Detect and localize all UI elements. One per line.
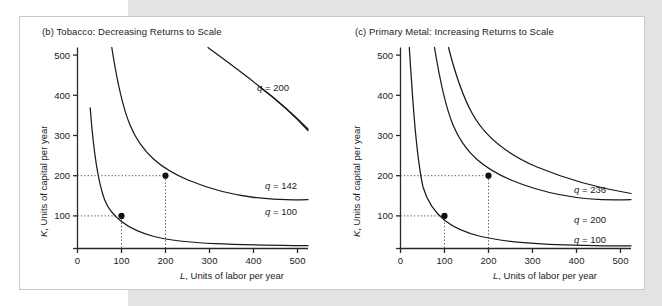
x-tick-100-tobacco: 100	[114, 255, 130, 266]
isoquant-q200-primary-metal	[435, 48, 632, 200]
guide-lines-tobacco	[78, 176, 166, 249]
y-tick-200-tobacco: 200	[54, 170, 70, 181]
curve-label-q236-eq-primary-metal: =	[579, 184, 590, 195]
isoquant-q200-tail-tobacco	[260, 87, 308, 129]
curve-label-q100-eq-primary-metal: =	[579, 234, 590, 245]
x-tick-200-primary-metal: 200	[481, 255, 497, 266]
panel-primary-metal: (c) Primary Metal: Increasing Returns to…	[333, 17, 646, 291]
curve-label-q100-eq-tobacco: =	[270, 206, 281, 217]
x-tick-100-primary-metal: 100	[437, 255, 453, 266]
marked-point-100-100-tobacco	[118, 213, 124, 219]
curve-label-q100-primary-metal: q = 100	[574, 234, 606, 245]
y-ticks-tobacco: 100 200 300 400 500	[54, 50, 77, 249]
curve-label-q200-primary-metal: q = 200	[574, 214, 606, 225]
curve-label-q200-eq-primary-metal: =	[579, 214, 590, 225]
curve-label-q200-tobacco: q = 200	[257, 82, 289, 93]
curve-label-q236-value-primary-metal: 236	[590, 184, 606, 195]
x-tick-300-tobacco: 300	[202, 255, 218, 266]
panel-tobacco: (b) Tobacco: Decreasing Returns to Scale…	[20, 17, 333, 291]
curve-label-q200-eq-tobacco: =	[262, 82, 273, 93]
curve-label-q200-value-primary-metal: 200	[590, 214, 606, 225]
curve-label-q142-value-tobacco: 142	[281, 180, 297, 191]
isoquant-q236-primary-metal	[449, 48, 632, 194]
curve-label-q142-tobacco: q = 142	[265, 180, 297, 191]
x-tick-400-tobacco: 400	[246, 255, 262, 266]
y-tick-100-tobacco: 100	[54, 210, 70, 221]
y-tick-400-tobacco: 400	[54, 90, 70, 101]
curve-label-q236-primary-metal: q = 236	[574, 184, 606, 195]
y-ticks-primary-metal: 100 200 300 400 500	[377, 50, 400, 249]
y-tick-300-tobacco: 300	[54, 130, 70, 141]
x-tick-300-primary-metal: 300	[525, 255, 541, 266]
figure-card: (b) Tobacco: Decreasing Returns to Scale…	[19, 16, 645, 290]
y-tick-500-primary-metal: 500	[377, 50, 393, 61]
y-tick-500-tobacco: 500	[54, 50, 70, 61]
curve-label-q200-value-tobacco: 200	[273, 82, 289, 93]
x-tick-400-primary-metal: 400	[569, 255, 585, 266]
x-ticks-primary-metal: 0 100 200 300 400 500	[398, 249, 629, 267]
curve-label-q142-eq-tobacco: =	[270, 180, 281, 191]
marked-point-200-200-primary-metal	[485, 173, 491, 179]
x-tick-0-primary-metal: 0	[398, 255, 403, 266]
plot-area-primary-metal: 100 200 300 400 500 0 100 200	[333, 17, 646, 291]
marked-point-100-100-primary-metal	[441, 213, 447, 219]
y-tick-300-primary-metal: 300	[377, 130, 393, 141]
x-tick-500-primary-metal: 500	[613, 255, 629, 266]
x-tick-0-tobacco: 0	[75, 255, 80, 266]
marked-point-200-200-tobacco	[162, 173, 168, 179]
y-tick-200-primary-metal: 200	[377, 170, 393, 181]
x-tick-500-tobacco: 500	[290, 255, 306, 266]
curve-label-q100-value-tobacco: 100	[281, 206, 297, 217]
y-tick-100-primary-metal: 100	[377, 210, 393, 221]
plot-area-tobacco: 100 200 300 400 500 0 100 200	[20, 17, 333, 291]
x-tick-200-tobacco: 200	[158, 255, 174, 266]
isoquant-q142-tobacco	[112, 48, 308, 200]
curve-label-q100-tobacco: q = 100	[265, 206, 297, 217]
curve-label-q100-value-primary-metal: 100	[590, 234, 606, 245]
guide-lines-primary-metal	[401, 176, 489, 249]
isoquant-q100-tobacco	[90, 108, 308, 246]
x-ticks-tobacco: 0 100 200 300 400 500	[75, 249, 306, 267]
y-tick-400-primary-metal: 400	[377, 90, 393, 101]
figure-root: (b) Tobacco: Decreasing Returns to Scale…	[0, 0, 662, 306]
axes-tobacco	[78, 48, 309, 249]
